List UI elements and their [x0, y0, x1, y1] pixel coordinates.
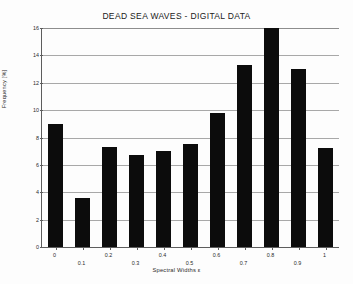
x-axis-tick-mark [191, 247, 192, 250]
y-axis-tick-mark [40, 165, 43, 166]
y-axis-tick-mark [40, 83, 43, 84]
y-axis-tick-label: 12 [28, 80, 39, 86]
y-axis-tick-mark [40, 220, 43, 221]
x-axis-tick-mark [164, 247, 165, 250]
y-axis-tick-label: 6 [28, 162, 39, 168]
y-axis-tick-mark [40, 28, 43, 29]
x-axis-title: Spectral Widths ε [0, 267, 353, 273]
y-axis-tick-label: 2 [28, 217, 39, 223]
x-axis-tick-mark [56, 247, 57, 250]
y-axis-tick-label: 4 [28, 189, 39, 195]
x-axis-tick-mark [218, 247, 219, 250]
x-axis-tick-label: 0.3 [126, 260, 146, 266]
axis-ticks: 0246810121416 [42, 28, 339, 247]
x-axis-tick-label: 1 [315, 252, 335, 258]
x-axis-tick-label: 0.2 [99, 252, 119, 258]
x-axis-tick-label: 0.1 [72, 260, 92, 266]
chart-title: DEAD SEA WAVES - DIGITAL DATA [0, 11, 353, 21]
y-axis-tick-label: 10 [28, 107, 39, 113]
x-axis-tick-mark [245, 247, 246, 250]
x-axis-tick-label: 0.9 [288, 260, 308, 266]
x-axis-tick-mark [83, 247, 84, 250]
plot-area: 0246810121416 [41, 28, 339, 248]
y-axis-tick-mark [40, 138, 43, 139]
y-axis-tick-mark [40, 192, 43, 193]
y-axis-tick-label: 0 [28, 244, 39, 250]
x-axis-tick-mark [137, 247, 138, 250]
x-axis-tick-label: 0.4 [153, 252, 173, 258]
x-axis-tick-mark [110, 247, 111, 250]
y-axis-tick-label: 8 [28, 135, 39, 141]
y-axis-title: Frequency [%] [1, 59, 7, 119]
y-axis-tick-label: 14 [28, 52, 39, 58]
x-axis-tick-mark [272, 247, 273, 250]
x-axis-tick-mark [299, 247, 300, 250]
y-axis-tick-mark [40, 247, 43, 248]
y-axis-tick-label: 16 [28, 25, 39, 31]
y-axis-tick-mark [40, 55, 43, 56]
x-axis-tick-mark [326, 247, 327, 250]
x-axis-tick-label: 0 [45, 252, 65, 258]
x-axis-tick-label: 0.7 [234, 260, 254, 266]
x-axis-tick-label: 0.5 [180, 260, 200, 266]
chart-figure: DEAD SEA WAVES - DIGITAL DATA Frequency … [0, 0, 353, 284]
x-axis-tick-label: 0.8 [261, 252, 281, 258]
x-axis-tick-label: 0.6 [207, 252, 227, 258]
y-axis-tick-mark [40, 110, 43, 111]
